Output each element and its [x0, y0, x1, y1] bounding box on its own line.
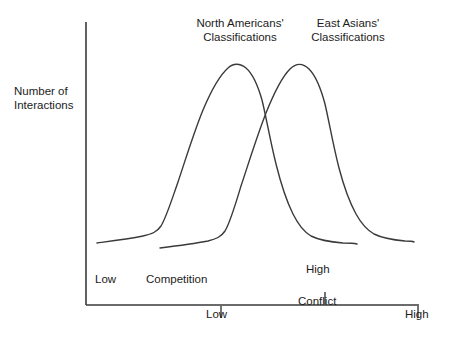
annotation-east-asians: East Asians' Classifications: [300, 16, 396, 44]
conflict-axis-name: Conflict: [298, 294, 336, 308]
chart-canvas: [0, 0, 456, 337]
competition-low-label: Low: [95, 272, 116, 286]
annotation-north-americans: North Americans' Classifications: [186, 16, 294, 44]
curve-east-asians: [160, 65, 414, 249]
competition-high-label: High: [306, 262, 330, 276]
curve-north-americans: [97, 64, 357, 244]
competition-axis-name: Competition: [146, 272, 207, 286]
y-axis-title: Number of Interactions: [14, 84, 84, 112]
conflict-high-label: High: [405, 307, 429, 321]
conflict-low-label: Low: [206, 307, 227, 321]
figure-container: North Americans' Classifications East As…: [0, 0, 456, 337]
